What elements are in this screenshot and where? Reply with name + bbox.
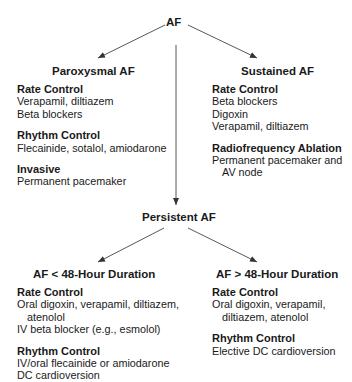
sustained-rf-ablation: Radiofrequency Ablation Permanent pacema… (212, 142, 342, 179)
paroxysmal-details: Rate Control Verapamil, diltiazem Beta b… (17, 83, 166, 197)
arrow-persistent-to-gt48 (188, 228, 257, 262)
arrow-af-to-paroxysmal (98, 25, 165, 58)
sustained-details: Rate Control Beta blockers Digoxin Verap… (212, 83, 342, 188)
sustained-rate-control: Rate Control Beta blockers Digoxin Verap… (212, 83, 342, 133)
node-lt48-title: AF < 48-Hour Duration (33, 268, 155, 280)
paroxysmal-rhythm-control: Rhythm Control Flecainide, sotalol, amio… (17, 129, 166, 154)
lt48-rhythm-control: Rhythm Control IV/oral flecainide or ami… (17, 345, 179, 382)
gt48-rhythm-control: Rhythm Control Elective DC cardioversion (212, 332, 336, 357)
node-sustained-title: Sustained AF (241, 65, 314, 77)
node-gt48-title: AF > 48-Hour Duration (216, 268, 338, 280)
paroxysmal-rate-control: Rate Control Verapamil, diltiazem Beta b… (17, 83, 166, 120)
gt48-details: Rate Control Oral digoxin, verapamil, di… (212, 286, 336, 366)
lt48-details: Rate Control Oral digoxin, verapamil, di… (17, 286, 179, 382)
arrow-af-to-sustained (188, 25, 257, 58)
node-persistent: Persistent AF (142, 211, 216, 223)
paroxysmal-invasive: Invasive Permanent pacemaker (17, 163, 166, 188)
arrow-persistent-to-lt48 (98, 228, 164, 262)
node-paroxysmal-title: Paroxysmal AF (52, 65, 135, 77)
lt48-rate-control: Rate Control Oral digoxin, verapamil, di… (17, 286, 179, 336)
node-af: AF (166, 16, 181, 28)
gt48-rate-control: Rate Control Oral digoxin, verapamil, di… (212, 286, 336, 323)
